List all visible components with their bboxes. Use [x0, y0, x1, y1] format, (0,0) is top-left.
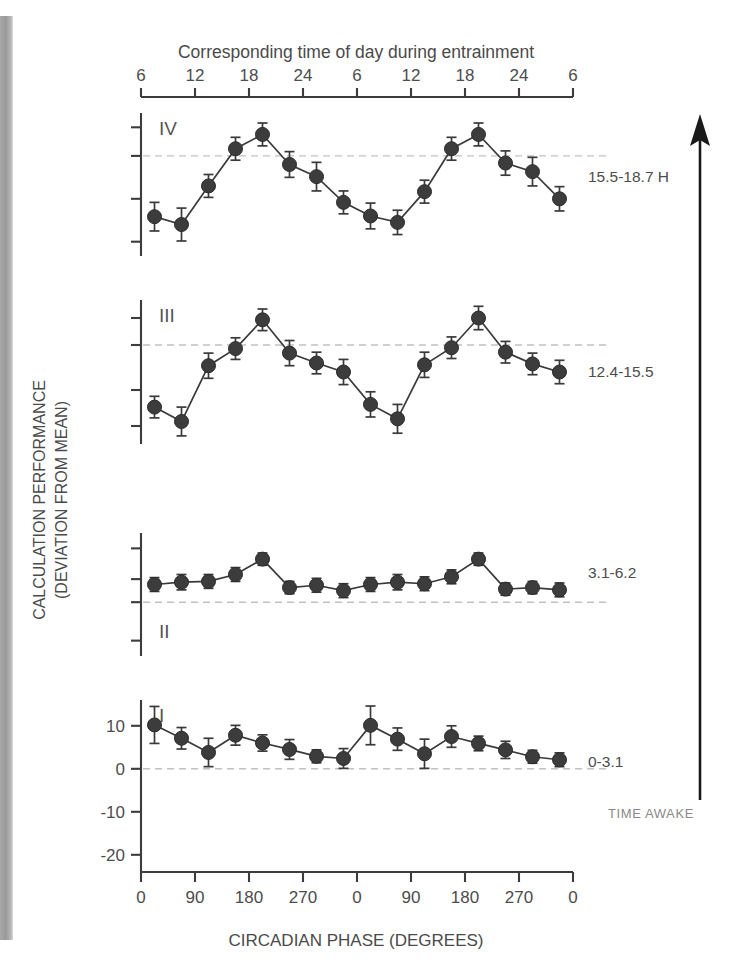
data-marker: [229, 728, 243, 742]
data-point: [553, 187, 567, 211]
data-point: [283, 581, 297, 595]
data-point: [418, 577, 432, 591]
data-marker: [202, 179, 216, 193]
data-point: [391, 575, 405, 590]
panel-side-label: 3.1-6.2: [588, 564, 636, 581]
data-point: [472, 736, 486, 751]
data-marker: [310, 578, 324, 592]
data-point: [364, 392, 378, 417]
data-point: [526, 581, 540, 595]
data-marker: [148, 210, 162, 224]
data-marker: [337, 751, 351, 765]
bottom-tick-label: 0: [568, 888, 577, 907]
data-marker: [229, 342, 243, 356]
data-point: [472, 306, 486, 329]
data-marker: [175, 415, 189, 429]
time-awake-label: TIME AWAKE: [608, 806, 694, 821]
data-point: [472, 552, 486, 566]
circadian-performance-chart: Corresponding time of day during entrain…: [0, 0, 737, 967]
data-marker: [445, 341, 459, 355]
data-point: [526, 353, 540, 375]
data-marker: [310, 356, 324, 370]
bottom-tick-label: 180: [451, 888, 479, 907]
data-marker: [256, 736, 270, 750]
data-marker: [229, 142, 243, 156]
panel-roman-numeral: II: [159, 621, 170, 642]
data-point: [256, 735, 270, 751]
data-marker: [526, 357, 540, 371]
data-marker: [202, 745, 216, 759]
data-point: [553, 583, 567, 597]
panel-roman-numeral: I: [159, 705, 164, 726]
data-point: [148, 578, 162, 592]
data-marker: [499, 345, 513, 359]
panel-y-tick-label: -10: [100, 803, 125, 822]
figure-root: Corresponding time of day during entrain…: [0, 0, 737, 967]
data-marker: [364, 209, 378, 223]
data-marker: [310, 170, 324, 184]
top-axis-title: Corresponding time of day during entrain…: [178, 42, 534, 62]
data-point: [283, 341, 297, 366]
data-point: [364, 578, 378, 592]
data-series-line: [155, 134, 560, 224]
data-marker: [364, 397, 378, 411]
data-point: [310, 749, 324, 763]
data-point: [337, 191, 351, 214]
data-marker: [283, 346, 297, 360]
data-marker: [229, 568, 243, 582]
data-marker: [175, 218, 189, 232]
top-tick-label: 24: [510, 66, 529, 85]
data-point: [175, 728, 189, 750]
data-marker: [391, 732, 405, 746]
panel-roman-numeral: IV: [159, 118, 177, 139]
data-marker: [499, 743, 513, 757]
data-marker: [337, 584, 351, 598]
data-marker: [445, 730, 459, 744]
data-point: [229, 568, 243, 582]
data-point: [553, 753, 567, 767]
data-marker: [472, 127, 486, 141]
bottom-axis: 0901802700901802700: [136, 872, 577, 907]
data-marker: [418, 358, 432, 372]
data-point: [526, 157, 540, 186]
data-point: [202, 574, 216, 588]
panel-side-label: 15.5-18.7 H: [588, 168, 669, 185]
data-point: [391, 210, 405, 234]
top-axis: 612182461218246: [136, 66, 577, 97]
data-point: [364, 706, 378, 745]
data-marker: [526, 581, 540, 595]
data-marker: [472, 736, 486, 750]
y-axis-label-line2: (DEVIATION FROM MEAN): [53, 401, 70, 599]
panel-side-label: 12.4-15.5: [588, 363, 654, 380]
data-marker: [283, 742, 297, 756]
data-marker: [391, 412, 405, 426]
data-point: [445, 337, 459, 359]
data-point: [499, 582, 513, 596]
data-marker: [499, 582, 513, 596]
data-marker: [283, 157, 297, 171]
data-marker: [283, 581, 297, 595]
data-point: [148, 202, 162, 231]
panel-y-tick-label: -20: [100, 846, 125, 865]
scan-edge-artifact: [0, 16, 13, 940]
data-point: [310, 578, 324, 592]
data-point: [499, 151, 513, 175]
data-point: [418, 739, 432, 768]
data-point: [310, 352, 324, 374]
data-point: [148, 396, 162, 418]
data-series-line: [155, 318, 560, 422]
data-point: [256, 309, 270, 331]
panel-roman-numeral: III: [159, 305, 175, 326]
data-marker: [553, 365, 567, 379]
top-tick-label: 18: [456, 66, 475, 85]
data-marker: [526, 165, 540, 179]
data-marker: [202, 574, 216, 588]
data-point: [310, 162, 324, 191]
top-tick-label: 12: [402, 66, 421, 85]
data-point: [337, 584, 351, 598]
top-tick-label: 6: [136, 66, 145, 85]
data-point: [553, 360, 567, 383]
panel-y-tick-label: 10: [106, 717, 125, 736]
data-point: [229, 725, 243, 745]
bottom-axis-title: CIRCADIAN PHASE (DEGREES): [228, 931, 483, 950]
